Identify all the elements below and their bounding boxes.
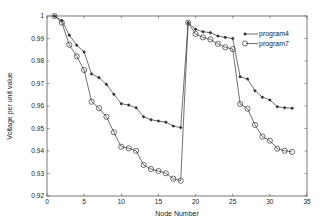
y-tick-label: 0.93	[31, 170, 44, 177]
y-tick-label: 0.95	[31, 125, 44, 132]
x-tick-label: 20	[192, 198, 200, 205]
y-tick-label: 0.99	[31, 35, 44, 42]
y-tick-label: 0.92	[31, 192, 44, 199]
x-tick-label: 0	[45, 198, 49, 205]
x-tick-label: 30	[266, 198, 274, 205]
legend-label: program7	[259, 40, 289, 48]
x-axis-label: Node Number	[155, 210, 199, 217]
y-tick-label: 1	[40, 12, 44, 19]
y-tick-label: 0.96	[31, 102, 44, 109]
x-tick-label: 5	[82, 198, 86, 205]
y-tick-label: 0.94	[31, 147, 44, 154]
x-tick-label: 25	[229, 198, 237, 205]
x-tick-label: 35	[303, 198, 311, 205]
voltage-line-chart: 05101520253035 0.920.930.940.950.960.970…	[0, 0, 324, 224]
y-axis-label: Voltage per unit value	[6, 72, 14, 139]
x-tick-label: 15	[155, 198, 163, 205]
x-tick-label: 10	[118, 198, 126, 205]
y-tick-label: 0.98	[31, 57, 44, 64]
y-tick-label: 0.97	[31, 80, 44, 87]
legend-label: program4	[259, 30, 289, 38]
